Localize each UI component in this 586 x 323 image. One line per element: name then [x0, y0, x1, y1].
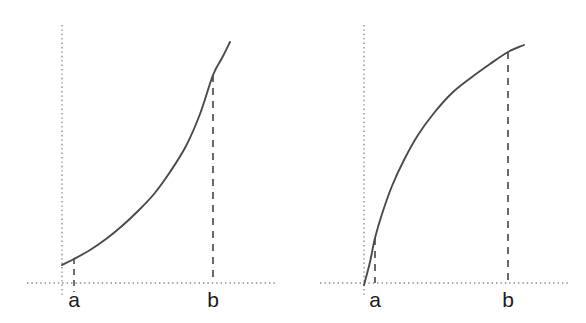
figure-root: a b a b — [0, 0, 586, 323]
right-curve-path — [364, 45, 524, 285]
left-tick-label-b: b — [198, 289, 228, 310]
panel-left-convex-curve: a b — [0, 0, 293, 323]
left-curve-path — [62, 42, 230, 265]
right-chart-svg — [293, 0, 586, 323]
left-tick-label-a: a — [59, 289, 89, 310]
right-tick-label-a: a — [360, 289, 390, 310]
left-chart-svg — [0, 0, 293, 323]
right-tick-label-b: b — [493, 289, 523, 310]
panel-right-concave-curve: a b — [293, 0, 586, 323]
